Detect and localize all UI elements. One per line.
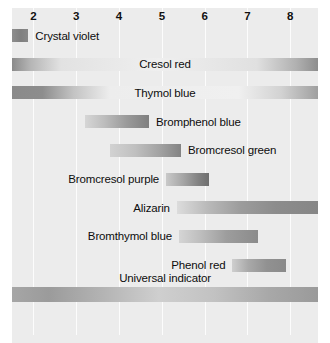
indicator-label: Alizarin — [133, 201, 170, 214]
range-bar — [177, 201, 318, 214]
indicator-label: Phenol red — [171, 259, 225, 272]
x-tick-label-3: 3 — [73, 9, 79, 24]
range-bar — [110, 144, 181, 157]
indicator-row: Crystal violet — [12, 29, 318, 42]
indicator-row: Bromphenol blue — [12, 115, 318, 128]
x-axis-tick-labels: 2345678 — [12, 9, 318, 27]
x-tick-label-7: 7 — [244, 9, 250, 24]
indicator-row: Phenol red — [12, 259, 318, 272]
x-tick-label-2: 2 — [30, 9, 36, 24]
range-bar — [166, 173, 209, 186]
x-tick-label-5: 5 — [159, 9, 165, 24]
indicator-label: Crystal violet — [35, 29, 99, 42]
x-tick-label-4: 4 — [116, 9, 122, 24]
range-bar — [85, 115, 149, 128]
indicator-row: Universal indicator — [12, 287, 318, 302]
range-bar — [232, 259, 286, 272]
indicator-label: Thymol blue — [12, 86, 318, 99]
indicator-row: Alizarin — [12, 201, 318, 214]
indicator-label: Bromcresol green — [188, 144, 276, 157]
bottom-strip — [12, 335, 318, 343]
indicator-label: Universal indicator — [12, 272, 318, 285]
indicator-label: Bromthymol blue — [88, 230, 172, 243]
indicator-row: Bromthymol blue — [12, 230, 318, 243]
indicator-label: Cresol red — [12, 58, 318, 71]
indicator-label: Bromphenol blue — [156, 115, 241, 128]
range-bar — [12, 287, 318, 302]
indicator-row: Bromcresol purple — [12, 173, 318, 186]
x-tick-label-8: 8 — [287, 9, 293, 24]
indicator-row: Bromcresol green — [12, 144, 318, 157]
range-bar — [12, 29, 28, 42]
indicator-row: Thymol blue — [12, 86, 318, 99]
indicator-label: Bromcresol purple — [68, 173, 159, 186]
range-bar — [179, 230, 258, 243]
ph-indicator-range-chart: 2345678 Crystal violetCresol redThymol b… — [0, 0, 330, 343]
x-tick-label-6: 6 — [201, 9, 207, 24]
indicator-row: Cresol red — [12, 58, 318, 71]
